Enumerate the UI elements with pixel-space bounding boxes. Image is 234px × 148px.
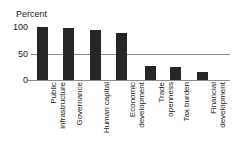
y-axis-tick-100: 100: [13, 23, 28, 32]
category-label-2: Governance: [75, 82, 84, 146]
bar-3: [90, 30, 101, 80]
category-label-6: Tax burden: [182, 82, 191, 146]
category-label-1: Public infrastructure: [49, 82, 67, 146]
bar-5: [145, 66, 156, 80]
x-axis-category-labels: Public infrastructureGovernanceHuman cap…: [31, 82, 230, 148]
bar-6: [170, 67, 181, 80]
bar-4: [116, 33, 127, 80]
category-label-7: Financial development: [209, 82, 227, 146]
bar-chart-figure: Percent 050100 Public infrastructureGove…: [0, 0, 234, 148]
bar-7: [197, 72, 208, 80]
y-axis-title: Percent: [16, 9, 47, 20]
category-label-4: Economic development: [128, 82, 146, 146]
reference-line-50: [31, 54, 230, 55]
bar-2: [63, 28, 74, 80]
y-axis-tick-50: 50: [18, 50, 28, 59]
plot-area: 050100: [31, 20, 230, 80]
category-label-3: Human capital: [102, 82, 111, 146]
bar-1: [37, 27, 48, 80]
category-label-5: Trade openness: [157, 82, 175, 146]
x-axis-line: [28, 80, 230, 81]
